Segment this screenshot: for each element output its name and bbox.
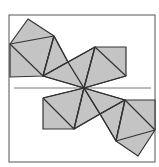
diagram-canvas	[0, 0, 159, 167]
geometric-net-diagram	[0, 0, 159, 167]
